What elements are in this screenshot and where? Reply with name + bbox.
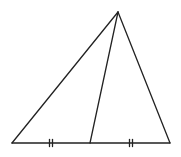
median [90, 12, 118, 143]
side-right [118, 12, 170, 143]
side-left [12, 12, 118, 143]
triangle-diagram [0, 0, 181, 157]
